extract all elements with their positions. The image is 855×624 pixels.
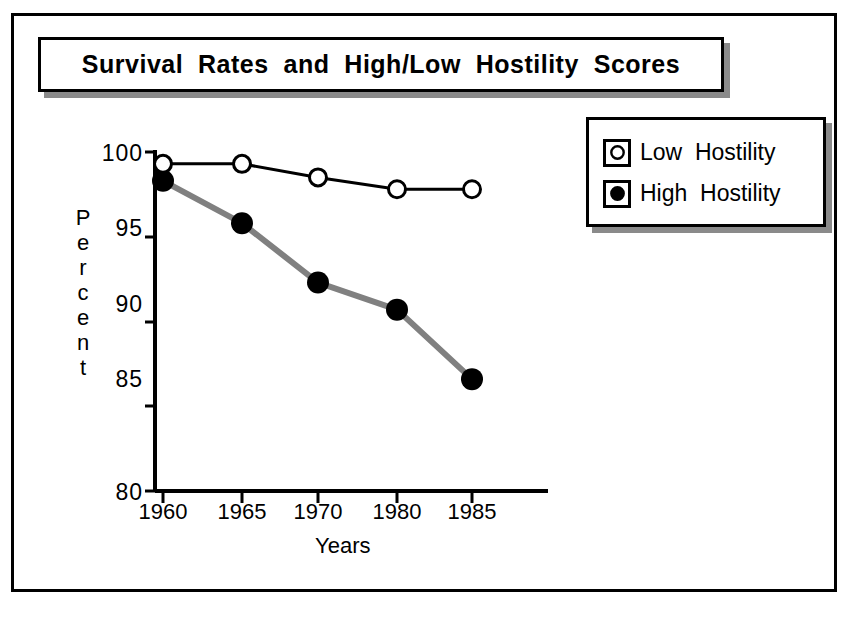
title-box: Survival Rates and High/Low Hostility Sc… [38,37,724,92]
xtick-label-1970: 1970 [278,499,358,525]
y-axis-title: P e r c e n t [70,205,96,380]
y-axis-title-letter: t [70,355,96,380]
page-title: Survival Rates and High/Low Hostility Sc… [82,50,680,79]
ytick-label-100: 100 [83,140,143,167]
y-axis-title-letter: n [70,330,96,355]
open-circle-icon [603,139,631,167]
legend-item-high-hostility: High Hostility [603,173,823,214]
y-axis-title-letter: c [70,280,96,305]
y-axis-title-letter: r [70,255,96,280]
xtick-label-1965: 1965 [202,499,282,525]
legend-item-low-hostility: Low Hostility [603,132,823,173]
xtick-label-1960: 1960 [123,499,203,525]
xtick-label-1980: 1980 [357,499,437,525]
x-axis-title: Years [315,533,370,559]
y-axis-title-letter: e [70,305,96,330]
xtick-label-1985: 1985 [432,499,512,525]
filled-circle-icon [603,180,631,208]
y-axis-title-letter: e [70,230,96,255]
legend-label-low-hostility: Low Hostility [640,139,775,166]
chart-page: Survival Rates and High/Low Hostility Sc… [0,0,855,624]
y-axis-title-letter: P [70,205,96,230]
chart-legend: Low Hostility High Hostility [586,117,826,227]
legend-label-high-hostility: High Hostility [640,180,781,207]
